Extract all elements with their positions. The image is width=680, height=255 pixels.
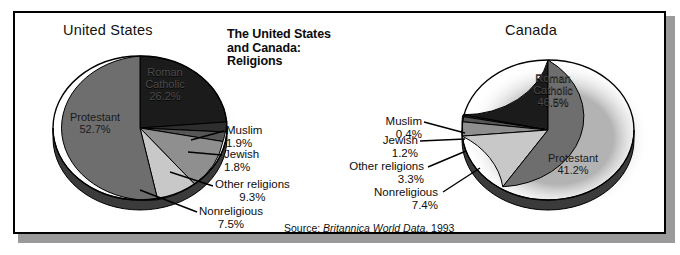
source-prefix: Source:	[284, 222, 323, 234]
ca-nonrel-name: Nonreligious	[374, 186, 438, 198]
figure-title-line-1: The United States	[227, 28, 347, 42]
us-chart-heading: United States	[63, 22, 153, 38]
us-callout-other-religions: Other religions 9.3%	[215, 178, 290, 203]
canada-callout-nonreligious: Nonreligious 7.4%	[344, 186, 438, 211]
ca-jewish-name: Jewish	[383, 134, 418, 146]
us-jewish-name: Jewish	[224, 148, 259, 160]
ca-nonrel-pct: 7.4%	[344, 199, 438, 212]
canada-pie-svg	[452, 50, 662, 215]
canada-callout-jewish: Jewish 1.2%	[344, 134, 418, 159]
source-publication: Britannica World Data	[323, 222, 425, 234]
canada-chart-heading: Canada	[505, 22, 557, 38]
us-callout-jewish: Jewish 1.8%	[224, 148, 259, 173]
ca-other-name: Other religions	[349, 160, 424, 172]
source-year: , 1993	[425, 222, 454, 234]
us-callout-nonreligious: Nonreligious 7.5%	[199, 205, 263, 230]
us-other-name: Other religions	[215, 178, 290, 190]
us-nonrel-pct: 7.5%	[199, 218, 263, 231]
canada-pie-chart	[452, 50, 662, 215]
us-slice-roman-catholic	[140, 56, 227, 128]
canada-callout-other-religions: Other religions 3.3%	[330, 160, 424, 185]
ca-other-pct: 3.3%	[330, 173, 424, 186]
ca-muslim-name: Muslim	[386, 115, 422, 127]
us-nonrel-name: Nonreligious	[199, 205, 263, 217]
us-jewish-pct: 1.8%	[224, 161, 259, 174]
source-note: Source: Britannica World Data, 1993	[284, 222, 454, 234]
figure-canvas: United States Canada The United States a…	[0, 0, 680, 255]
us-muslim-name: Muslim	[226, 124, 262, 136]
ca-jewish-pct: 1.2%	[344, 147, 418, 160]
us-callout-muslim: Muslim 1.9%	[226, 124, 262, 149]
us-other-pct: 9.3%	[215, 191, 290, 204]
